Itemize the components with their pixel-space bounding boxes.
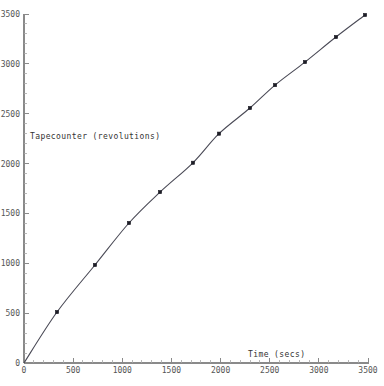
data-point-marker	[55, 310, 58, 313]
data-point-marker	[217, 132, 220, 135]
y-tick-label: 2500	[1, 110, 20, 119]
y-tick-label: 1500	[1, 209, 20, 218]
data-point-marker	[191, 161, 194, 164]
data-point-marker	[93, 263, 96, 266]
y-tick-label: 2000	[1, 160, 20, 169]
y-axis-title: Tapecounter (revolutions)	[30, 132, 160, 141]
y-tick-label: 1000	[1, 259, 20, 268]
data-markers-group	[55, 13, 366, 313]
x-tick-label: 0	[22, 366, 27, 375]
x-tick-label: 1500	[162, 366, 181, 375]
data-curve	[24, 15, 365, 363]
data-point-marker	[248, 106, 251, 109]
data-point-marker	[363, 13, 366, 16]
tick-labels-group: 0500100015002000250030003500050010001500…	[1, 10, 378, 375]
x-tick-label: 2500	[260, 366, 279, 375]
y-tick-label: 0	[15, 359, 20, 368]
ticks-group	[24, 14, 368, 363]
axes-group	[24, 14, 369, 363]
data-point-marker	[127, 221, 130, 224]
y-tick-label: 500	[6, 309, 21, 318]
data-point-marker	[334, 35, 337, 38]
y-tick-label: 3000	[1, 60, 20, 69]
x-tick-label: 3500	[358, 366, 377, 375]
y-tick-label: 3500	[1, 10, 20, 19]
x-tick-label: 3000	[309, 366, 328, 375]
data-point-marker	[273, 84, 276, 87]
chart-container: 0500100015002000250030003500050010001500…	[0, 0, 384, 386]
x-axis-title: Time (secs)	[248, 350, 305, 359]
plot-series-group	[24, 13, 367, 363]
x-tick-label: 500	[66, 366, 81, 375]
x-tick-label: 1000	[113, 366, 132, 375]
data-point-marker	[158, 190, 161, 193]
x-tick-label: 2000	[211, 366, 230, 375]
line-chart: 0500100015002000250030003500050010001500…	[0, 0, 384, 386]
data-point-marker	[303, 60, 306, 63]
